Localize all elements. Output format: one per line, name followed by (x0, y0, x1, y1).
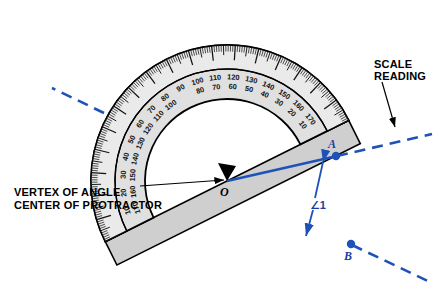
vertex-callout-label-line2: CENTER OF PROTRACTOR (14, 199, 162, 211)
scale-reading-label-line2: READING (374, 70, 426, 82)
scale-number-outer-120: 120 (227, 72, 240, 82)
figure-canvas: 1017020160301504014050130601207011080100… (0, 0, 444, 292)
protractor-diagram-svg: 1017020160301504014050130601207011080100… (0, 0, 444, 292)
scale-number-inner-150: 150 (128, 169, 138, 182)
point-b-dot (347, 240, 355, 248)
scale-reading-label-line1: SCALE (374, 58, 412, 70)
point-a-label: A (327, 137, 336, 151)
scale-number-inner-60: 60 (228, 82, 237, 91)
scale-number-outer-30: 30 (118, 170, 127, 179)
point-b-label: B (343, 249, 352, 263)
point-a-dot (332, 152, 340, 160)
scale-number-inner-70: 70 (212, 82, 221, 92)
point-o-label: O (220, 185, 229, 199)
angle-1-label: ∠1 (310, 199, 326, 211)
scale-number-inner-160: 160 (128, 185, 138, 198)
vertex-callout-label-line1: VERTEX OF ANGLE (14, 186, 121, 198)
